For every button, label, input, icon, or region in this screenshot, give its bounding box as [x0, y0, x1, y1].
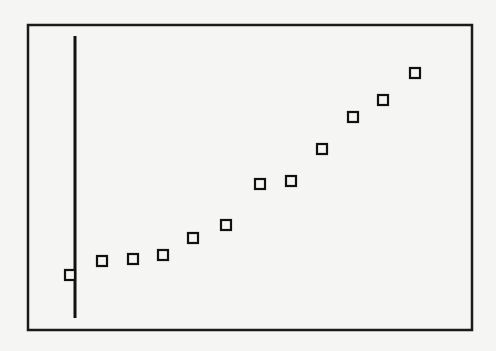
- data-point-square-icon: [286, 176, 296, 186]
- scatter-chart: [0, 0, 496, 351]
- data-point-square-icon: [348, 112, 358, 122]
- data-point-square-icon: [410, 68, 420, 78]
- data-point-square-icon: [378, 95, 388, 105]
- data-point-square-icon: [97, 256, 107, 266]
- data-point-square-icon: [65, 270, 75, 280]
- data-points: [65, 68, 420, 280]
- data-point-square-icon: [158, 250, 168, 260]
- data-point-square-icon: [188, 233, 198, 243]
- chart-canvas: [0, 0, 496, 351]
- data-point-square-icon: [221, 220, 231, 230]
- data-point-square-icon: [255, 179, 265, 189]
- data-point-square-icon: [317, 144, 327, 154]
- chart-frame: [28, 25, 472, 330]
- data-point-square-icon: [128, 254, 138, 264]
